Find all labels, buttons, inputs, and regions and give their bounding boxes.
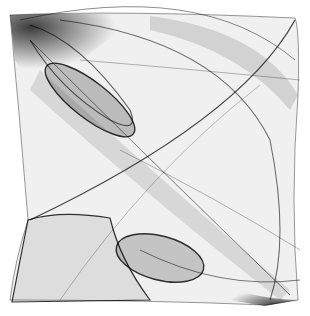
generative-artwork bbox=[0, 0, 310, 316]
